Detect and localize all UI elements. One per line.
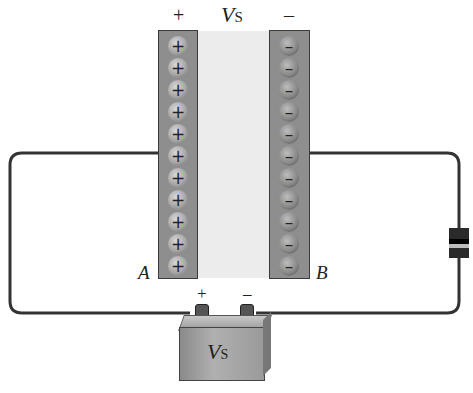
negative-charge-icon: – [279, 234, 299, 254]
voltage-symbol: V [221, 2, 234, 27]
positive-charge-icon: + [168, 234, 188, 254]
negative-charge-icon: – [279, 58, 299, 78]
positive-charge-icon: + [168, 256, 188, 276]
capacitor-plate-b: ––––––––––– [269, 30, 310, 279]
positive-charge-icon: + [168, 168, 188, 188]
plate-a-label: A [138, 262, 150, 284]
battery-label-symbol: V [207, 339, 220, 364]
negative-charge-icon: – [279, 190, 299, 210]
negative-charge-icon: – [279, 80, 299, 100]
positive-charge-icon: + [168, 146, 188, 166]
negative-charge-icon: – [279, 256, 299, 276]
plate-b-label: B [316, 262, 328, 284]
voltage-label: VS [221, 2, 243, 28]
negative-charge-icon: – [279, 36, 299, 56]
capacitor-plate-a: +++++++++++ [158, 30, 198, 279]
positive-charge-icon: + [168, 58, 188, 78]
top-minus-sign: – [284, 4, 294, 27]
negative-charge-icon: – [279, 102, 299, 122]
battery-label-subscript: S [220, 347, 228, 362]
battery-label: VS [207, 339, 228, 365]
positive-charge-icon: + [168, 212, 188, 232]
voltage-subscript: S [234, 9, 242, 25]
negative-charge-icon: – [279, 124, 299, 144]
resistor [449, 228, 469, 258]
dielectric-gap [197, 31, 270, 278]
positive-charge-icon: + [168, 124, 188, 144]
negative-charge-icon: – [279, 212, 299, 232]
battery-plus-sign: + [197, 284, 207, 304]
positive-charge-icon: + [168, 102, 188, 122]
positive-charge-icon: + [168, 80, 188, 100]
battery-body: VS [179, 327, 265, 381]
negative-charge-icon: – [279, 168, 299, 188]
positive-charge-icon: + [168, 190, 188, 210]
top-plus-sign: + [173, 4, 184, 27]
positive-charge-icon: + [168, 36, 188, 56]
negative-charge-icon: – [279, 146, 299, 166]
battery-side [263, 312, 271, 376]
resistor-band-light [449, 244, 469, 248]
battery-minus-sign: – [243, 284, 252, 304]
